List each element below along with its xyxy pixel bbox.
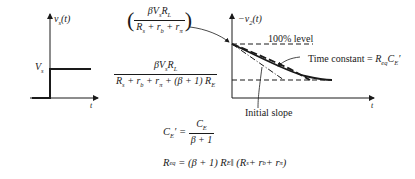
- initial-value-formula: ( βVsRL Rs + rb + rπ ): [127, 6, 192, 35]
- initial-slope-pointer: [258, 67, 262, 108]
- time-constant-label: Time constant = ReqCE′: [308, 54, 400, 67]
- step-level-label: Vs: [35, 62, 44, 75]
- initial-slope-line: [232, 44, 284, 80]
- initial-slope-label: Initial slope: [245, 108, 293, 118]
- ce-prime-formula: CE′ = CE β + 1: [163, 119, 214, 145]
- req-formula: Req = (β + 1) RE ‖ (Rs + rb + rπ): [163, 157, 286, 168]
- output-y-axis-label: −v2(t): [238, 14, 262, 27]
- input-step-plot: [30, 14, 98, 98]
- input-y-axis-label: vs(t): [54, 14, 70, 27]
- output-x-axis-label: t: [371, 102, 373, 110]
- initial-value-pointer: [190, 27, 229, 42]
- input-x-axis-label: t: [90, 102, 92, 110]
- diagram-canvas: [0, 0, 415, 179]
- final-value-formula: βVsRL Rs + rb + rπ + (β + 1) RE: [114, 60, 217, 89]
- level-100-label: 100% level: [268, 34, 313, 44]
